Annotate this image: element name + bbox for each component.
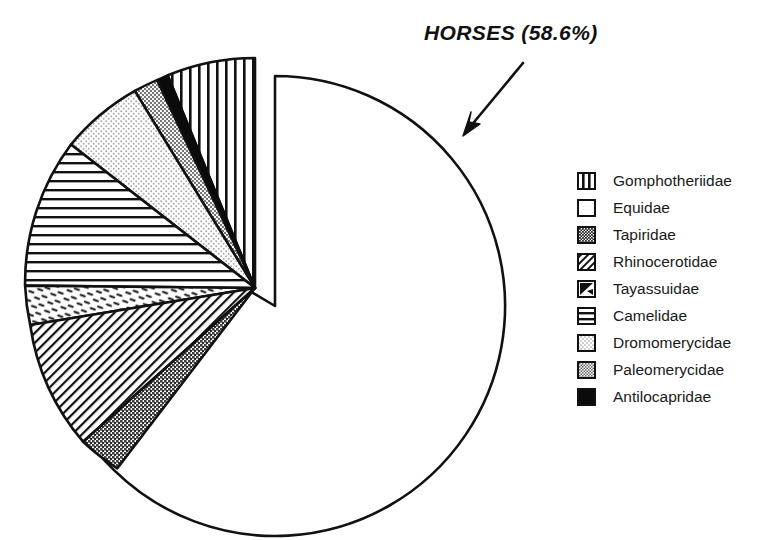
swatch-light-dots-icon xyxy=(578,335,595,351)
pie-chart-figure: HORSES (58.6%) Gomphotheriidae Equidae T… xyxy=(0,0,772,540)
legend-label: Gomphotheriidae xyxy=(613,172,732,189)
legend-label: Dromomerycidae xyxy=(613,334,731,351)
legend-item-tapiridae[interactable]: Tapiridae xyxy=(578,226,676,243)
legend-item-equidae[interactable]: Equidae xyxy=(578,199,670,216)
legend-label: Camelidae xyxy=(613,307,687,324)
legend-label: Equidae xyxy=(613,199,670,216)
swatch-dark-dots-icon xyxy=(578,227,595,243)
swatch-diagonal-lines-icon xyxy=(578,254,595,270)
swatch-vertical-lines-icon xyxy=(578,173,595,189)
legend-label: Rhinocerotidae xyxy=(613,253,717,270)
legend-item-camelidae[interactable]: Camelidae xyxy=(578,307,687,324)
legend-label: Tapiridae xyxy=(613,226,676,243)
swatch-horizontal-lines-icon xyxy=(578,308,595,324)
figure-canvas: HORSES (58.6%) Gomphotheriidae Equidae T… xyxy=(0,0,772,540)
swatch-solid-black-icon xyxy=(578,389,595,405)
legend-label: Antilocapridae xyxy=(613,388,711,405)
legend-label: Tayassuidae xyxy=(613,280,699,297)
legend-label: Paleomerycidae xyxy=(613,361,724,378)
swatch-plain-white-icon xyxy=(578,200,595,216)
swatch-medium-dots-icon xyxy=(578,362,595,378)
callout-label: HORSES (58.6%) xyxy=(424,21,598,44)
